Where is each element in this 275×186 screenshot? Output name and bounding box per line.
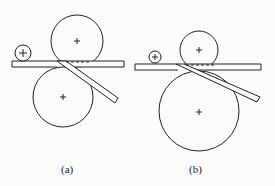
roll-bending-diagram: (a) (b)	[0, 0, 275, 186]
panel-b	[135, 31, 261, 151]
panel-b-label: (b)	[189, 163, 202, 175]
panel-a-label: (a)	[61, 163, 73, 175]
panel-a	[12, 15, 124, 127]
diagram-canvas	[0, 0, 275, 186]
